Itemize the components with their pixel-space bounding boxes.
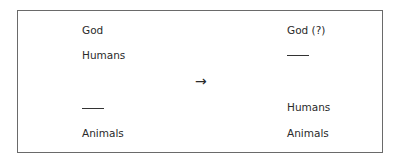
right-animals-label: Animals [287, 127, 329, 139]
right-god-label: God (?) [287, 24, 325, 36]
left-animals-label: Animals [82, 127, 124, 139]
left-divider-line [82, 108, 104, 109]
right-arrow-icon: → [195, 74, 207, 88]
left-humans-label: Humans [82, 49, 125, 61]
right-humans-label: Humans [287, 101, 330, 113]
right-divider-line [287, 55, 309, 56]
left-god-label: God [82, 24, 103, 36]
